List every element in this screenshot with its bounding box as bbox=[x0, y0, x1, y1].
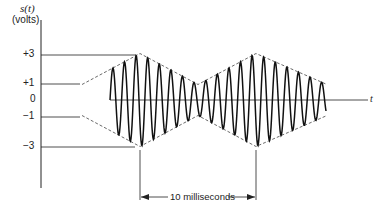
y-axis-label: s(t) bbox=[20, 2, 35, 14]
tick-zero: 0 bbox=[30, 93, 36, 104]
tick-minus3: −3 bbox=[23, 140, 34, 151]
duration-annotation: 10 milliseconds bbox=[170, 191, 235, 202]
tick-plus1: +1 bbox=[23, 77, 34, 88]
tick-minus1: −1 bbox=[23, 110, 34, 121]
x-axis-label: t bbox=[370, 93, 373, 104]
y-axis-unit: (volts) bbox=[12, 14, 39, 25]
waveform-plot bbox=[0, 0, 381, 212]
tick-plus3: +3 bbox=[23, 48, 34, 59]
diagram: s(t) (volts) +3 +1 0 −1 −3 t 10 millisec… bbox=[0, 0, 381, 212]
